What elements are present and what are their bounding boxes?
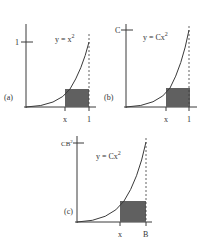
- y-tick-label: C: [115, 26, 120, 35]
- y-tick-label: CB2: [61, 139, 73, 148]
- equation: y = Cx2: [143, 31, 168, 42]
- x-tick-label-x: x: [63, 115, 67, 124]
- y-tick-label: 1: [15, 38, 19, 47]
- equation: y = Cx2: [96, 150, 121, 161]
- panel-c: CB2 y = Cx2 (c) x B: [61, 136, 152, 239]
- shaded-rectangle: [166, 88, 190, 107]
- x-tick-label-1: 1: [87, 115, 91, 124]
- diagram-canvas: 1 y = x2 (a) x 1 C y = Cx2 (b) x 1 CB2 y…: [0, 0, 205, 249]
- shaded-rectangle: [120, 201, 146, 222]
- x-tick-label-1: 1: [187, 115, 191, 124]
- panel-label: (c): [64, 207, 73, 216]
- x-tick-label-x: x: [118, 230, 122, 239]
- panel-label: (a): [4, 93, 13, 102]
- panel-a: 1 y = x2 (a) x 1: [4, 24, 96, 124]
- panel-label: (b): [104, 93, 114, 102]
- x-tick-label-b: B: [143, 230, 148, 239]
- equation: y = x2: [55, 33, 75, 44]
- x-tick-label-x: x: [164, 115, 168, 124]
- shaded-rectangle: [65, 89, 89, 107]
- panel-b: C y = Cx2 (b) x 1: [104, 24, 197, 124]
